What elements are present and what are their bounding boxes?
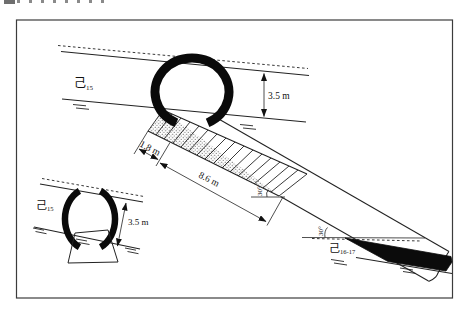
tunnel-ring: [155, 58, 229, 123]
inset-thickness-text: 3.5 m: [128, 217, 149, 227]
inset-seam-label: 己: [36, 199, 47, 211]
roadway-floor-line: [281, 197, 429, 282]
incline-length-dimension: [160, 163, 266, 222]
incline-length-text: 8.6 m: [197, 170, 221, 189]
lower-seam-label-subscript: 16-17: [340, 248, 356, 255]
inset-thickness-dimension: [118, 203, 127, 246]
roadway-roof-line: [214, 116, 450, 252]
upper-seam-label-subscript: 15: [86, 84, 94, 92]
mining-cross-section-diagram: 己 15 3.5 m 1.8 m 8.6 m 30° 30° 己 16-17 己…: [0, 0, 470, 316]
inset-tunnel-left-arc: [65, 191, 79, 247]
inset-seam-label-subscript: 15: [47, 205, 54, 212]
incline-angle-text: 30°: [256, 186, 264, 196]
upper-seam-label: 己: [74, 76, 86, 90]
inset-tunnel-right-arc: [101, 191, 115, 247]
horizontal-reference-line: [302, 238, 425, 239]
seam-roof-dashed-line: [312, 239, 421, 242]
figure-canvas: 己 15 3.5 m 1.8 m 8.6 m 30° 30° 己 16-17 己…: [0, 0, 470, 316]
lower-seam-label: 己: [329, 242, 340, 254]
coal-seam-black-band: [345, 238, 452, 271]
dip-angle-arc: [325, 228, 328, 238]
seam-dip-angle-text: 30°: [317, 226, 325, 236]
seam-thickness-text: 3.5 m: [268, 91, 290, 101]
